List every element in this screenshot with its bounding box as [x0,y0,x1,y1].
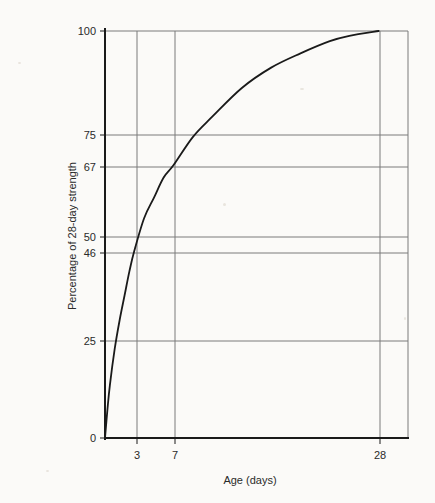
y-tick-label-75: 75 [84,129,96,141]
y-tick-label-25: 25 [84,335,96,347]
y-tick-label-50: 50 [84,231,96,243]
x-tick-label-28: 28 [374,449,386,461]
chart-figure: 100 75 67 50 46 25 0 3 7 28 Age (days) P… [0,0,435,503]
y-tick-label-46: 46 [84,247,96,259]
y-tick-label-67: 67 [84,161,96,173]
y-tick-label-100: 100 [78,25,96,37]
y-tick-label-0: 0 [90,432,96,444]
x-tick-label-3: 3 [134,449,140,461]
chart-canvas: 100 75 67 50 46 25 0 3 7 28 Age (days) P… [0,0,435,503]
x-axis-title: Age (days) [223,474,276,486]
x-tick-label-7: 7 [172,449,178,461]
y-axis-title: Percentage of 28-day strength [66,162,78,310]
